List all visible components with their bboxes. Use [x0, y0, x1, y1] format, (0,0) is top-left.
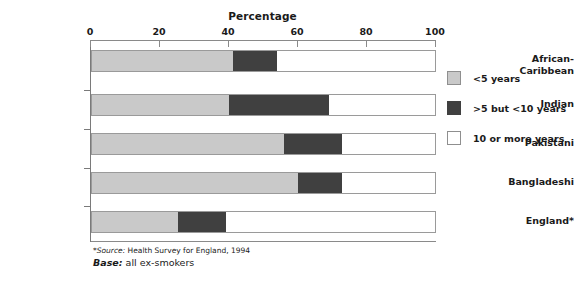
legend-item-10-or-more-years: 10 or more years [447, 123, 572, 153]
footnote-source-line: *Source: Health Survey for England, 1994 [93, 245, 250, 256]
x-tick-mark-100 [435, 40, 436, 47]
y-minor-tick-4 [84, 206, 91, 207]
y-minor-tick-3 [84, 168, 91, 169]
bar-segment-5-to-10-years [298, 173, 343, 193]
bar-row-indian [91, 94, 436, 116]
legend-item-label: <5 years [473, 73, 520, 84]
bar-segment-5-to-10-years [178, 212, 226, 232]
x-tick-mark-20 [159, 40, 160, 47]
bar-segment-10-or-more-years [342, 134, 435, 154]
x-tick-mark-60 [297, 40, 298, 47]
x-axis-tick-labels: 0 20 40 60 80 100 [90, 26, 435, 38]
legend-item-label: >5 but <10 years [473, 103, 566, 114]
footnote-base-line: Base: all ex-smokers [93, 256, 250, 269]
category-label-line1: Bangladeshi [488, 176, 574, 188]
bar-segment-10-or-more-years [277, 51, 435, 71]
bar-row-african-caribbean [91, 50, 436, 72]
category-label-line1: England* [488, 215, 574, 227]
footnote-source-text: Health Survey for England, 1994 [125, 246, 250, 255]
x-tick-mark-80 [366, 40, 367, 47]
x-axis-line [90, 40, 436, 41]
x-tick-mark-0 [90, 40, 91, 47]
footnote-base-label: Base: [93, 257, 123, 268]
chart-footnote: *Source: Health Survey for England, 1994… [93, 245, 250, 269]
bar-segment-5-to-10-years [233, 51, 278, 71]
x-tick-label-60: 60 [290, 26, 303, 37]
chart-figure: Percentage 0 20 40 60 80 100 African- Ca… [0, 0, 574, 282]
bar-segment-5-to-10-years [229, 95, 328, 115]
y-minor-tick-2 [84, 129, 91, 130]
legend-swatch-icon [447, 131, 461, 145]
bar-segment-10-or-more-years [329, 95, 435, 115]
bar-row-bangladeshi [91, 172, 436, 194]
x-tick-label-80: 80 [359, 26, 372, 37]
x-tick-label-0: 0 [87, 26, 94, 37]
x-tick-label-40: 40 [221, 26, 234, 37]
bar-row-pakistani [91, 133, 436, 155]
bar-row-england [91, 211, 436, 233]
bar-segment-under-5-years [92, 212, 178, 232]
footnote-base-text: all ex-smokers [123, 257, 195, 268]
page-title: Percentage [90, 10, 435, 22]
bar-segment-under-5-years [92, 95, 229, 115]
bar-segment-10-or-more-years [226, 212, 435, 232]
legend-item-5-to-10-years: >5 but <10 years [447, 93, 572, 123]
x-tick-label-100: 100 [425, 26, 445, 37]
category-label-bangladeshi: Bangladeshi [488, 176, 574, 188]
bar-segment-under-5-years [92, 51, 233, 71]
bar-segment-under-5-years [92, 173, 298, 193]
category-label-england: England* [488, 215, 574, 227]
bar-segment-10-or-more-years [342, 173, 435, 193]
legend-swatch-icon [447, 71, 461, 85]
chart-legend: <5 years >5 but <10 years 10 or more yea… [447, 63, 572, 153]
x-tick-label-20: 20 [152, 26, 165, 37]
legend-item-label: 10 or more years [473, 133, 564, 144]
x-axis-bottom-line [90, 241, 436, 242]
x-tick-mark-40 [228, 40, 229, 47]
bar-segment-5-to-10-years [284, 134, 342, 154]
y-minor-tick-1 [84, 90, 91, 91]
legend-item-under-5-years: <5 years [447, 63, 572, 93]
bar-segment-under-5-years [92, 134, 284, 154]
footnote-source-label: Source: [97, 246, 125, 255]
legend-swatch-icon [447, 101, 461, 115]
